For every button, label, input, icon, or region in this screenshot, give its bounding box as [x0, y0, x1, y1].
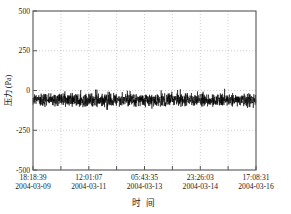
pressure-time-chart: 500 250 0 -250 -500 18:18:39 2004-03-09 … [0, 0, 291, 214]
y-tick-label: 500 [19, 7, 31, 16]
x-tick-time: 23:26:03 [187, 173, 214, 182]
y-tick-label: 0 [26, 86, 30, 95]
x-tick-date: 2004-03-13 [127, 182, 163, 191]
y-axis-title: 压力 (Pa) [3, 74, 13, 106]
y-tick-label: -250 [16, 126, 30, 135]
x-tick-date: 2004-03-09 [15, 182, 51, 191]
x-tick-date: 2004-03-11 [71, 182, 106, 191]
x-axis-title: 时 间 [132, 197, 157, 208]
chart-canvas: 500 250 0 -250 -500 18:18:39 2004-03-09 … [0, 0, 291, 214]
x-tick-time: 17:08:31 [242, 173, 269, 182]
x-tick-date: 2004-03-14 [183, 182, 219, 191]
x-tick-date: 2004-03-16 [238, 182, 274, 191]
x-tick-time: 12:01:07 [75, 173, 102, 182]
y-tick-labels: 500 250 0 -250 -500 [16, 7, 30, 175]
x-tick-time: 05:43:35 [131, 173, 158, 182]
x-tick-time: 18:18:39 [19, 173, 46, 182]
y-tick-label: 250 [19, 46, 31, 55]
x-tick-labels: 18:18:39 2004-03-09 12:01:07 2004-03-11 … [15, 173, 274, 191]
